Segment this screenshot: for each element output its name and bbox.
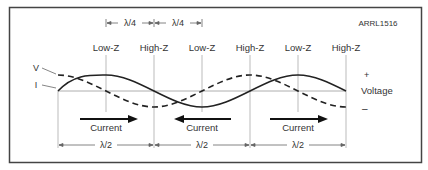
impedance-label: Low-Z bbox=[93, 42, 120, 53]
current-direction-label: Current bbox=[186, 122, 218, 133]
current-direction-label: Current bbox=[90, 122, 122, 133]
half-wave-label: λ/2 bbox=[292, 140, 304, 150]
current-direction-label: Current bbox=[282, 122, 314, 133]
standing-wave-diagram: ARRL1516 λ/4 λ/4 Low-Z High-Z Low-Z High… bbox=[0, 0, 428, 170]
impedance-label: High-Z bbox=[236, 42, 265, 53]
voltage-wave-label: V bbox=[33, 63, 39, 73]
impedance-label: Low-Z bbox=[189, 42, 216, 53]
impedance-label: Low-Z bbox=[285, 42, 312, 53]
half-wave-label: λ/2 bbox=[196, 140, 208, 150]
impedance-label: High-Z bbox=[332, 42, 361, 53]
quarter-wave-label: λ/4 bbox=[124, 18, 136, 28]
figure-id-label: ARRL1516 bbox=[358, 19, 398, 28]
voltage-plus-label: + bbox=[364, 70, 369, 80]
voltage-minus-label: – bbox=[362, 103, 368, 114]
voltage-axis-label: Voltage bbox=[361, 85, 393, 96]
quarter-wave-label: λ/4 bbox=[172, 18, 184, 28]
current-wave-label: I bbox=[35, 80, 38, 90]
diagram-border bbox=[10, 8, 422, 163]
half-wave-label: λ/2 bbox=[100, 140, 112, 150]
impedance-label: High-Z bbox=[140, 42, 169, 53]
